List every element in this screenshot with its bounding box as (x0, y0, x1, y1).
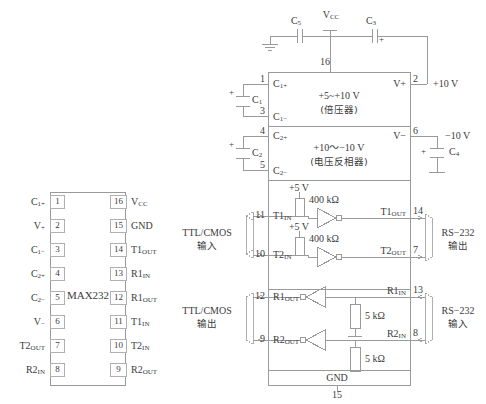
pinout-right-pin-14: 14 (110, 243, 127, 257)
pin-7-label: 7 (413, 245, 418, 255)
brace-rs232-input-top (425, 293, 432, 297)
capacitor-c4-polarity: + (421, 147, 426, 156)
brace-ttl-output-bottom (246, 340, 253, 344)
resistor-r2-icon (350, 347, 360, 371)
minus10v-output-label: −10 V (445, 131, 470, 141)
pin-1-label: 1 (260, 74, 265, 84)
pinout-left-label-1: C1+ (31, 197, 45, 208)
t2-pullup-supply-label: +5 V (289, 222, 309, 232)
resistor-t2-pullup-icon (295, 237, 304, 255)
pinout-right-label-12: R1OUT (131, 293, 157, 304)
resistor-t1-pullup-icon (295, 198, 304, 216)
c1-plus-label: C1+ (273, 79, 287, 90)
pinout-left-pin-5: 5 (50, 291, 65, 305)
capacitor-c4-label: C4 (449, 147, 459, 158)
r2in-label: R2IN (387, 329, 406, 340)
rs232-input-label-line2: 输入 (448, 319, 468, 329)
inverter-subtitle: (电压反相器) (310, 157, 367, 167)
vminus-label: V− (393, 131, 406, 141)
pinout-left-label-6: V− (34, 317, 45, 328)
pinout-right-pin-13: 13 (110, 267, 127, 281)
pin-14-label: 14 (413, 206, 423, 216)
r2out-label: R2OUT (273, 335, 299, 346)
pin-15-label: 15 (332, 390, 342, 400)
pinout-left-pin-8: 8 (50, 363, 65, 377)
buffer-r2-icon (306, 330, 325, 350)
brace-rs232-input-bottom (425, 340, 432, 344)
ttl-cmos-output-label-line1: TTL/CMOS (182, 306, 231, 316)
pin-8-label: 8 (413, 328, 418, 338)
pinout-right-pin-12: 12 (110, 291, 127, 305)
pinout-left-label-3: C1− (31, 245, 45, 256)
brace-ttl-output-top (246, 293, 253, 297)
pinout-right-pin-11: 11 (110, 315, 127, 329)
t2in-label: T2IN (273, 250, 292, 261)
circuit-schematic-svg (0, 0, 486, 404)
rs232-input-label-line1: RS−232 (442, 306, 475, 316)
vplus-label: V+ (393, 79, 406, 89)
pin-9-label: 9 (260, 334, 265, 344)
pinout-right-pin-9: 9 (110, 363, 127, 377)
ttl-cmos-output-label-line2: 输出 (197, 319, 217, 329)
pin-13-label: 13 (413, 285, 423, 295)
pinout-right-label-11: T1IN (131, 317, 150, 328)
pinout-left-label-4: C2+ (31, 269, 45, 280)
pinout-left-label-7: T2OUT (20, 341, 46, 352)
pin-11-label: 11 (255, 210, 265, 220)
pinout-right-pin-16: 16 (110, 195, 127, 209)
pin-16-label: 16 (320, 57, 330, 67)
doubler-subtitle: (倍压器) (320, 105, 357, 115)
pin-12-label: 12 (255, 291, 265, 301)
capacitor-c2-icon (236, 148, 250, 158)
ttl-cmos-input-label-line2: 输入 (197, 241, 217, 251)
diagram-canvas: C1+ 1 V+ 2 C1− 3 C2+ 4 C2− 5 V− 6 T2OUT … (0, 0, 486, 404)
r2-resistor-value-label: 5 kΩ (365, 354, 385, 364)
t1-pullup-supply-label: +5 V (289, 183, 309, 193)
pinout-right-label-13: R1IN (131, 269, 150, 280)
r1out-label: R1OUT (273, 292, 299, 303)
c2-minus-label: C2− (273, 166, 287, 177)
buffer-t1-icon (317, 208, 336, 228)
vcc-label: VCC (323, 10, 340, 21)
pinout-right-pin-10: 10 (110, 339, 127, 353)
t1in-label: T1IN (273, 211, 292, 222)
capacitor-c3-label: C3 (366, 16, 376, 27)
pin-2-label: 2 (413, 74, 418, 84)
pin-3-label: 3 (260, 106, 265, 116)
t1-pullup-value-label: 400 kΩ (309, 195, 339, 205)
capacitor-c2-label: C2 (252, 148, 262, 159)
c2-plus-label: C2+ (273, 131, 287, 142)
rs232-output-label-line1: RS−232 (442, 228, 475, 238)
buffer-t2-icon (317, 247, 336, 267)
c1-minus-label: C1− (273, 112, 287, 123)
pinout-right-label-9: R2OUT (131, 365, 157, 376)
capacitor-c4-icon (430, 148, 444, 157)
brace-rs232-output-top (425, 214, 432, 218)
pin-10-label: 10 (255, 249, 265, 259)
r1-resistor-value-label: 5 kΩ (365, 311, 385, 321)
pinout-right-label-10: T2IN (131, 341, 150, 352)
buffer-r1-icon (306, 287, 325, 307)
capacitor-c1-polarity: + (229, 88, 234, 97)
pinout-left-pin-4: 4 (50, 267, 65, 281)
pinout-left-pin-7: 7 (50, 339, 65, 353)
t1out-label: T1OUT (381, 207, 407, 218)
pinout-left-label-2: V+ (34, 221, 45, 232)
capacitor-c3-icon (372, 29, 377, 43)
rs232-output-label-line2: 输出 (448, 241, 468, 251)
capacitor-c5-icon (297, 29, 302, 43)
plus10v-output-label: +10 V (433, 79, 458, 89)
t2out-label: T2OUT (381, 246, 407, 257)
pinout-left-label-5: C2− (31, 293, 45, 304)
pin-6-label: 6 (413, 126, 418, 136)
pin-4-label: 4 (260, 126, 265, 136)
capacitor-c5-label: C5 (291, 16, 301, 27)
ground-icon (262, 44, 278, 50)
capacitor-c1-icon (236, 96, 250, 106)
brace-rs232-output-spine (425, 214, 432, 261)
pinout-left-pin-2: 2 (50, 219, 65, 233)
resistor-r1-icon (350, 304, 360, 328)
capacitor-c1-label: C1 (252, 95, 262, 106)
pinout-left-label-8: R2IN (26, 365, 45, 376)
t2-pullup-value-label: 400 kΩ (309, 234, 339, 244)
